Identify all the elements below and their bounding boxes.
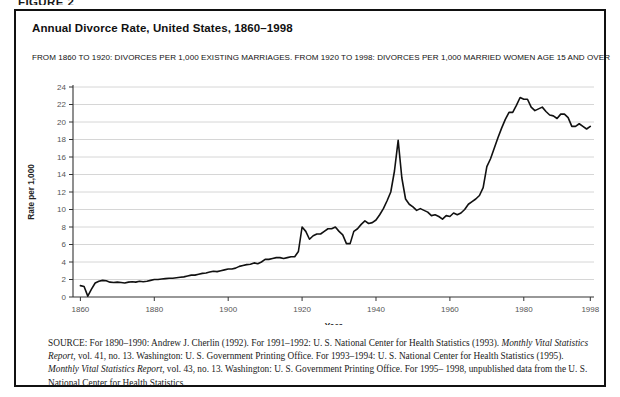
svg-text:6: 6 [62, 240, 67, 249]
source-text-1: For 1890–1990: Andrew J. Cherlin (1992).… [87, 338, 501, 348]
plot-area: 024681012141618202224 186018801900192019… [16, 73, 604, 325]
svg-text:1880: 1880 [145, 305, 163, 314]
figure-frame: Annual Divorce Rate, United States, 1860… [14, 9, 606, 387]
divorce-rate-series-line [80, 98, 590, 297]
svg-text:10: 10 [57, 205, 66, 214]
source-italic-2: Monthly Vital Statistics Report, [48, 364, 165, 374]
svg-text:24: 24 [57, 83, 66, 92]
svg-text:1860: 1860 [71, 305, 89, 314]
svg-text:1960: 1960 [441, 305, 459, 314]
svg-text:20: 20 [57, 118, 66, 127]
source-note: SOURCE: For 1890–1990: Andrew J. Cherlin… [48, 337, 596, 390]
svg-text:14: 14 [57, 170, 66, 179]
svg-text:1998: 1998 [581, 305, 599, 314]
svg-text:2: 2 [62, 275, 67, 284]
svg-text:1940: 1940 [367, 305, 385, 314]
svg-text:18: 18 [57, 135, 66, 144]
svg-text:0: 0 [62, 293, 67, 302]
y-axis-ticks: 024681012141618202224 [57, 83, 73, 302]
svg-text:16: 16 [57, 153, 66, 162]
svg-text:1900: 1900 [219, 305, 237, 314]
figure-number-label: FIGURE 2 [18, 0, 74, 5]
chart-subtitle: FROM 1860 TO 1920: DIVORCES PER 1,000 EX… [32, 53, 610, 62]
source-label: SOURCE: [48, 338, 87, 348]
svg-text:1980: 1980 [515, 305, 533, 314]
source-text-2: vol. 41, no. 13. Washington: U. S. Gover… [76, 351, 564, 361]
svg-text:8: 8 [62, 223, 67, 232]
x-axis-title: Year [325, 322, 343, 325]
gridlines [73, 87, 594, 280]
x-axis-ticks: 18601880190019201940196019801998 [71, 297, 599, 314]
svg-text:1920: 1920 [293, 305, 311, 314]
y-axis-title: Rate per 1,000 [27, 164, 36, 220]
divorce-rate-line-chart: 024681012141618202224 186018801900192019… [16, 73, 604, 325]
chart-title: Annual Divorce Rate, United States, 1860… [32, 22, 293, 34]
svg-text:22: 22 [57, 100, 66, 109]
svg-text:4: 4 [62, 258, 67, 267]
svg-text:12: 12 [57, 188, 66, 197]
